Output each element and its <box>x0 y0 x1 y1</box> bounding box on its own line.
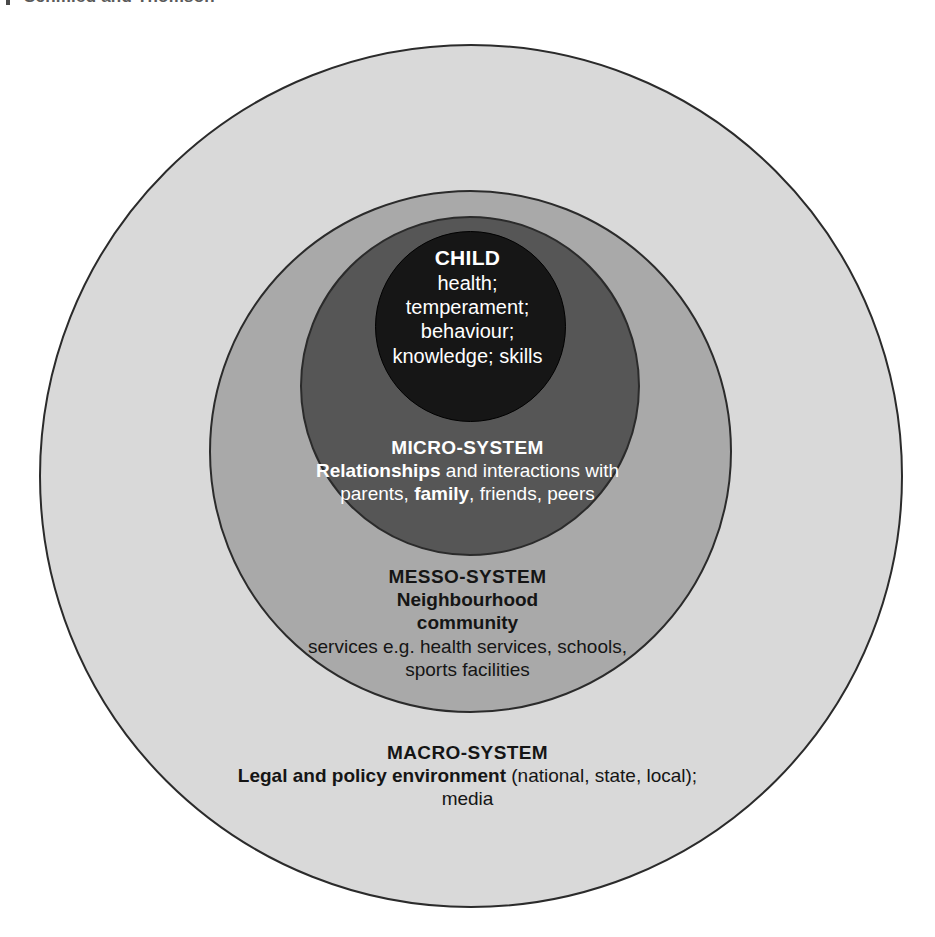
macro-system-line-2: media <box>0 787 935 810</box>
messo-subtitle-line-1: Neighbourhood <box>0 588 935 611</box>
macro-system-title: MACRO-SYSTEM <box>0 741 935 764</box>
macro-system-line-1: Legal and policy environment (national, … <box>0 764 935 787</box>
child-label-group: CHILD health; temperament; behaviour; kn… <box>0 245 935 368</box>
messo-detail-line-1: services e.g. health services, schools, <box>0 635 935 658</box>
micro-system-line-1: Relationships and interactions with <box>0 459 935 482</box>
micro-system-label-group: MICRO-SYSTEM Relationships and interacti… <box>0 436 935 506</box>
micro-system-title: MICRO-SYSTEM <box>0 436 935 459</box>
micro-family-emphasis: family <box>414 483 469 504</box>
micro-relationships-emphasis: Relationships <box>316 460 441 481</box>
messo-detail-line-2: sports facilities <box>0 658 935 681</box>
child-line-1: health; <box>0 271 935 295</box>
micro-line-2-pre: parents, <box>340 483 414 504</box>
macro-legal-policy-emphasis: Legal and policy environment <box>238 765 506 786</box>
messo-system-title: MESSO-SYSTEM <box>0 565 935 588</box>
micro-system-line-2: parents, family, friends, peers <box>0 482 935 505</box>
child-line-2: temperament; <box>0 295 935 319</box>
macro-line-1-rest: (national, state, local); <box>506 765 697 786</box>
messo-subtitle-line-2: community <box>0 611 935 634</box>
child-line-4: knowledge; skills <box>0 344 935 368</box>
child-line-3: behaviour; <box>0 319 935 343</box>
macro-system-label-group: MACRO-SYSTEM Legal and policy environmen… <box>0 741 935 811</box>
child-title: CHILD <box>0 245 935 271</box>
micro-line-1-rest: and interactions with <box>441 460 620 481</box>
ecological-systems-diagram: CHILD health; temperament; behaviour; kn… <box>0 0 935 937</box>
micro-line-2-post: , friends, peers <box>469 483 595 504</box>
messo-system-label-group: MESSO-SYSTEM Neighbourhood community ser… <box>0 565 935 681</box>
